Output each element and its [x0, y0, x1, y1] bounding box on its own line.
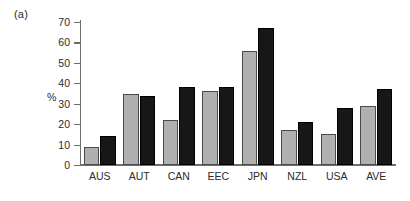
y-axis-tick	[74, 145, 80, 146]
bar	[298, 122, 314, 165]
x-axis-label: AUS	[80, 170, 120, 182]
y-axis-tick	[74, 42, 80, 43]
bar	[360, 106, 376, 165]
bar	[377, 89, 393, 165]
x-axis-label: AVE	[357, 170, 397, 182]
x-axis-label: USA	[317, 170, 357, 182]
bar	[281, 130, 297, 165]
bar	[140, 96, 156, 165]
bar	[100, 136, 116, 165]
y-axis-tick	[74, 63, 80, 64]
y-axis-tick-label: 20	[14, 118, 70, 130]
x-axis-label: EEC	[199, 170, 239, 182]
bar	[163, 120, 179, 165]
y-axis-tick-label: 40	[14, 77, 70, 89]
bar-group	[242, 22, 274, 165]
y-axis-line	[80, 20, 81, 166]
y-axis-tick	[74, 104, 80, 105]
bar-group	[202, 22, 234, 165]
y-axis-tick-label: 60	[14, 36, 70, 48]
y-axis-tick-label: 50	[14, 57, 70, 69]
bar-group	[123, 22, 155, 165]
bar	[84, 147, 100, 165]
y-axis-tick-label: 10	[14, 139, 70, 151]
y-axis-tick-label: 30	[14, 98, 70, 110]
bar	[321, 134, 337, 165]
x-axis-label: JPN	[238, 170, 278, 182]
y-axis-tick-label: 0	[14, 159, 70, 171]
y-axis-tick	[74, 22, 80, 23]
bar-group	[321, 22, 353, 165]
y-axis-tick	[74, 83, 80, 84]
bar	[242, 51, 258, 165]
bar-group	[360, 22, 392, 165]
bar	[219, 87, 235, 165]
bar	[258, 28, 274, 165]
bar-group	[163, 22, 195, 165]
bar	[202, 91, 218, 165]
x-axis-label: AUT	[120, 170, 160, 182]
bar-group	[281, 22, 313, 165]
x-axis-label: CAN	[159, 170, 199, 182]
chart-figure: (a) % 010203040506070 AUSAUTCANEECJPNNZL…	[0, 0, 410, 201]
bar	[123, 94, 139, 166]
bar	[179, 87, 195, 165]
y-axis-tick	[74, 124, 80, 125]
bar	[337, 108, 353, 165]
y-axis-tick-label: 70	[14, 16, 70, 28]
bar-group	[84, 22, 116, 165]
y-axis-tick	[74, 165, 80, 166]
x-axis-label: NZL	[278, 170, 318, 182]
